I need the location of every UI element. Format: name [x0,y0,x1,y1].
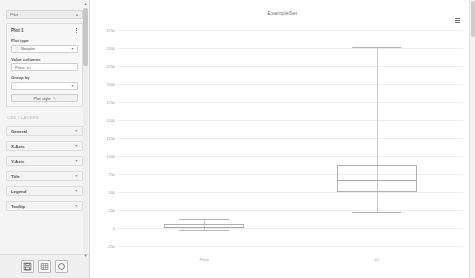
boxplot-whisker-cap [179,219,229,220]
kebab-menu-icon[interactable] [75,27,78,34]
plot-card-title: Plot 1 [11,28,24,33]
boxplot-whisker-cap [352,47,402,48]
scrollbar-thumb[interactable] [471,1,475,37]
boxplot-canvas: 275k250k225k200k175k150k125k100k75k50k25… [118,30,463,246]
window-scrollbar[interactable] [469,0,475,278]
plot-card: Plot 1 Plot type ◫ Boxplot ▼ Value colum… [6,23,83,107]
boxplot-whisker-cap [179,230,229,231]
accordion-label: General [11,129,27,134]
gridline [118,210,463,211]
circle-reset-icon [57,262,66,271]
x-axis-tick-label: Price [199,257,209,262]
scroll-up-icon[interactable]: ▲ [83,2,88,6]
boxplot-median-line [164,227,244,228]
plot-card-header: Plot 1 [11,27,78,34]
scroll-down-icon[interactable]: ▼ [83,254,88,258]
plot-type-label: Plot type [11,38,78,43]
chevron-down-icon: ▼ [71,47,74,51]
y-axis-tick-label: 175k [106,100,115,105]
accordion-tooltip[interactable]: Tooltip ▼ [6,201,83,211]
boxplot-median-line [337,180,417,181]
brush-icon: ✎ [53,96,56,101]
gridline [118,30,463,31]
y-axis-tick-label: -25k [107,244,115,249]
save-button[interactable] [21,260,34,273]
plot-style-button[interactable]: Plot style ✎ [11,94,78,103]
config-toolbar [0,254,89,278]
gridline [118,192,463,193]
group-by-value: - [15,83,69,88]
y-axis-tick-label: 250k [106,46,115,51]
boxplot-whisker-cap [352,212,402,213]
group-by-select[interactable]: - ▼ [11,82,78,90]
y-axis-tick-label: 225k [106,64,115,69]
accordion-label: X-Axis [11,144,24,149]
gridline [118,246,463,247]
y-axis-tick-label: 200k [106,82,115,87]
config-scroll-region: Plot ▲ Plot 1 Plot type ◫ Boxplot ▼ Valu… [0,0,89,254]
accordion-y-axis[interactable]: Y-Axis ▼ [6,156,83,166]
scrollbar-thumb[interactable] [83,8,88,66]
table-button[interactable] [38,260,51,273]
chart-title: ExampleSet [90,10,475,16]
gridline [118,228,463,229]
accordion-label: Title [11,174,20,179]
accordion-general[interactable]: General ▼ [6,126,83,136]
value-columns-field[interactable]: Price, x# [11,63,78,71]
y-axis-tick-label: 0 [113,226,115,231]
gridline [118,138,463,139]
value-columns-value: Price, x# [15,65,31,70]
accordion-title[interactable]: Title ▼ [6,171,83,181]
chevron-down-icon: ▼ [74,129,78,133]
y-axis-tick-label: 50k [109,190,115,195]
plot-style-label: Plot style [34,96,51,101]
hamburger-menu-icon[interactable] [454,17,461,24]
gridline [118,156,463,157]
y-axis-tick-label: 150k [106,118,115,123]
y-axis-tick-label: 275k [106,28,115,33]
chevron-down-icon: ▼ [74,189,78,193]
boxplot-box[interactable] [337,165,417,192]
chevron-down-icon: ▼ [74,144,78,148]
gridline [118,48,463,49]
y-axis-tick-label: 100k [106,154,115,159]
chevron-down-icon: ▼ [71,84,74,88]
accordion-label: Tooltip [11,204,25,209]
floppy-disk-icon [23,262,32,271]
chart-area: ExampleSet 275k250k225k200k175k150k125k1… [90,0,475,278]
accordion-x-axis[interactable]: X-Axis ▼ [6,141,83,151]
y-axis-tick-label: 125k [106,136,115,141]
plot-configuration-window: Plot ▲ Plot 1 Plot type ◫ Boxplot ▼ Valu… [0,0,475,278]
accordion-label: Y-Axis [11,159,24,164]
panel-header[interactable]: Plot ▲ [6,10,83,19]
chevron-down-icon: ▼ [74,159,78,163]
value-columns-label: Value columns [11,57,78,62]
chevron-down-icon: ▼ [74,204,78,208]
gridline [118,66,463,67]
group-by-label: Group by [11,75,78,80]
accordion-legend[interactable]: Legend ▼ [6,186,83,196]
panel-header-title: Plot [10,12,18,17]
gridline [118,102,463,103]
accordion-label: Legend [11,189,26,194]
boxplot-glyph-icon: ◫ [15,46,19,51]
config-panel-scrollbar[interactable]: ▲ ▼ [83,8,88,252]
table-grid-icon [40,262,49,271]
collapse-icon[interactable]: ▲ [75,13,79,17]
gridline [118,84,463,85]
y-axis-tick-label: 25k [109,208,115,213]
config-panel: Plot ▲ Plot 1 Plot type ◫ Boxplot ▼ Valu… [0,0,90,278]
plot-type-value: Boxplot [21,46,69,51]
chevron-down-icon: ▼ [74,174,78,178]
gridline [118,120,463,121]
reset-button[interactable] [55,260,68,273]
section-caption: CSS / LAYERS [7,115,83,120]
plot-type-select[interactable]: ◫ Boxplot ▼ [11,45,78,53]
x-axis-tick-label: x# [375,257,379,262]
y-axis-tick-label: 75k [109,172,115,177]
